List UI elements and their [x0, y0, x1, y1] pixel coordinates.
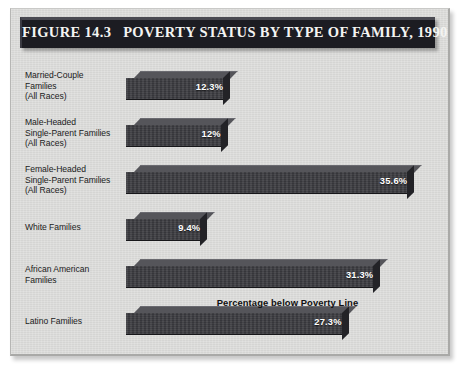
bar-category-label: Married-CoupleFamilies(All Races) [25, 70, 129, 102]
figure-title: FIGURE 14.3 POVERTY STATUS BY TYPE OF FA… [22, 24, 435, 41]
chart-plot-area: Married-CoupleFamilies(All Races)12.3%Ma… [11, 53, 449, 353]
bar-front-face [126, 266, 373, 288]
bar-front-face [126, 313, 342, 335]
bar-value-label: 35.6% [380, 176, 407, 186]
bar-category-label-line: Female-Headed [25, 164, 129, 175]
bar-value-label: 12% [202, 129, 221, 139]
bar: 27.3% [126, 306, 349, 340]
bar-side-face [407, 165, 414, 199]
bar-row: Male-HeadedSingle-Parent Families(All Ra… [11, 112, 449, 158]
bar-side-face [373, 259, 380, 293]
bar: 9.4% [126, 212, 207, 246]
bar: 12.3% [126, 71, 230, 105]
bar: 12% [126, 118, 228, 152]
bar-value-label: 9.4% [178, 223, 200, 233]
bar-front-face [126, 172, 407, 194]
bar-row: African AmericanFamilies31.3% [11, 253, 449, 299]
bar-category-label-line: (All Races) [25, 91, 129, 102]
bar-category-label-line: Single-Parent Families [25, 175, 129, 186]
bar-category-label: Latino Families [25, 316, 129, 327]
bar-category-label-line: African American [25, 264, 129, 275]
bar-category-label: White Families [25, 222, 129, 233]
bar-category-label-line: Families [25, 275, 129, 286]
bar-row: Female-HeadedSingle-Parent Families(All … [11, 159, 449, 205]
figure-frame: FIGURE 14.3 POVERTY STATUS BY TYPE OF FA… [10, 8, 450, 356]
bar-category-label: African AmericanFamilies [25, 264, 129, 285]
bar-side-face [221, 118, 228, 152]
bar-category-label-line: White Families [25, 222, 129, 233]
figure-title-band: FIGURE 14.3 POVERTY STATUS BY TYPE OF FA… [20, 17, 435, 48]
bar-row: Married-CoupleFamilies(All Races)12.3% [11, 65, 449, 111]
bar-category-label: Male-HeadedSingle-Parent Families(All Ra… [25, 117, 129, 149]
bar-category-label-line: Male-Headed [25, 117, 129, 128]
bar-side-face [223, 71, 230, 105]
bar-category-label-line: Families [25, 81, 129, 92]
bar-category-label-line: Single-Parent Families [25, 128, 129, 139]
bar-value-label: 27.3% [314, 317, 341, 327]
bar-category-label-line: Latino Families [25, 316, 129, 327]
bar-category-label: Female-HeadedSingle-Parent Families(All … [25, 164, 129, 196]
bar-category-label-line: (All Races) [25, 138, 129, 149]
bar-row: White Families9.4% [11, 206, 449, 252]
x-axis-caption: Percentage below Poverty Line [126, 297, 449, 308]
bar: 35.6% [126, 165, 414, 199]
bar-category-label-line: Married-Couple [25, 70, 129, 81]
bar: 31.3% [126, 259, 380, 293]
bar-side-face [200, 212, 207, 246]
bar-value-label: 31.3% [346, 270, 373, 280]
bar-side-face [342, 306, 349, 340]
bar-value-label: 12.3% [196, 82, 223, 92]
bar-category-label-line: (All Races) [25, 185, 129, 196]
